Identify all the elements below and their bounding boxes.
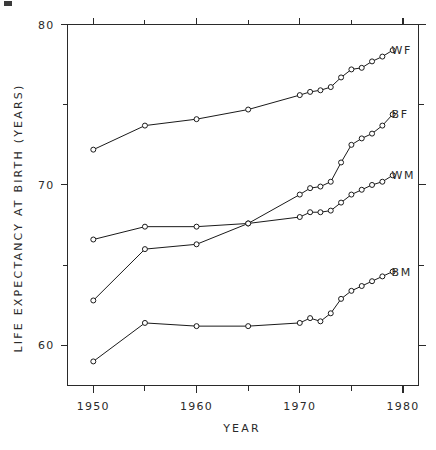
data-point-marker	[318, 210, 323, 215]
data-point-marker	[246, 107, 251, 112]
data-point-marker	[194, 117, 199, 122]
data-point-marker	[142, 224, 147, 229]
series-label-bf: BF	[392, 108, 409, 121]
life-expectancy-line-chart: 1950196019701980607080 WFBFWMBM YEAR LIF…	[0, 0, 436, 450]
data-point-marker	[297, 93, 302, 98]
data-point-marker	[339, 160, 344, 165]
series-label-bm: BM	[392, 266, 412, 279]
data-point-marker	[328, 179, 333, 184]
data-point-marker	[194, 242, 199, 247]
data-point-marker	[339, 200, 344, 205]
data-point-marker	[142, 123, 147, 128]
data-point-marker	[308, 89, 313, 94]
y-tick-label: 80	[38, 19, 55, 32]
data-point-marker	[142, 320, 147, 325]
x-tick-label: 1950	[77, 400, 110, 413]
data-point-marker	[359, 136, 364, 141]
data-point-marker	[194, 324, 199, 329]
data-point-marker	[359, 65, 364, 70]
data-point-marker	[308, 210, 313, 215]
data-point-marker	[359, 284, 364, 289]
x-tick-label: 1960	[180, 400, 213, 413]
data-point-marker	[370, 59, 375, 64]
data-point-marker	[318, 88, 323, 93]
data-point-marker	[91, 359, 96, 364]
data-point-marker	[370, 182, 375, 187]
data-point-marker	[91, 147, 96, 152]
data-point-marker	[91, 237, 96, 242]
data-point-marker	[328, 208, 333, 213]
data-point-marker	[246, 221, 251, 226]
y-tick-label: 60	[38, 339, 55, 352]
corner-artifact-mark	[4, 1, 12, 6]
data-point-marker	[328, 311, 333, 316]
series-label-wf: WF	[392, 44, 412, 57]
data-point-marker	[380, 179, 385, 184]
x-tick-label: 1980	[386, 400, 419, 413]
data-point-marker	[297, 192, 302, 197]
data-point-marker	[370, 131, 375, 136]
chart-figure: 1950196019701980607080 WFBFWMBM YEAR LIF…	[0, 0, 436, 450]
y-tick-label: 70	[38, 179, 55, 192]
data-point-marker	[339, 296, 344, 301]
series-label-wm: WM	[392, 169, 416, 182]
data-point-marker	[194, 224, 199, 229]
data-point-marker	[349, 142, 354, 147]
data-point-marker	[349, 288, 354, 293]
data-point-marker	[380, 54, 385, 59]
data-point-marker	[359, 187, 364, 192]
data-point-marker	[318, 184, 323, 189]
data-point-marker	[246, 324, 251, 329]
data-point-marker	[308, 186, 313, 191]
data-point-marker	[339, 75, 344, 80]
data-point-marker	[308, 316, 313, 321]
data-point-marker	[380, 123, 385, 128]
x-tick-label: 1970	[283, 400, 316, 413]
data-point-marker	[349, 67, 354, 72]
data-point-marker	[318, 319, 323, 324]
x-axis-title: YEAR	[222, 422, 261, 435]
data-point-marker	[297, 320, 302, 325]
data-point-marker	[142, 247, 147, 252]
data-point-marker	[349, 192, 354, 197]
data-point-marker	[297, 215, 302, 220]
data-point-marker	[328, 85, 333, 90]
y-axis-title: LIFE EXPECTANCY AT BIRTH (YEARS)	[12, 83, 25, 352]
data-point-marker	[370, 279, 375, 284]
data-point-marker	[91, 298, 96, 303]
data-point-marker	[380, 274, 385, 279]
